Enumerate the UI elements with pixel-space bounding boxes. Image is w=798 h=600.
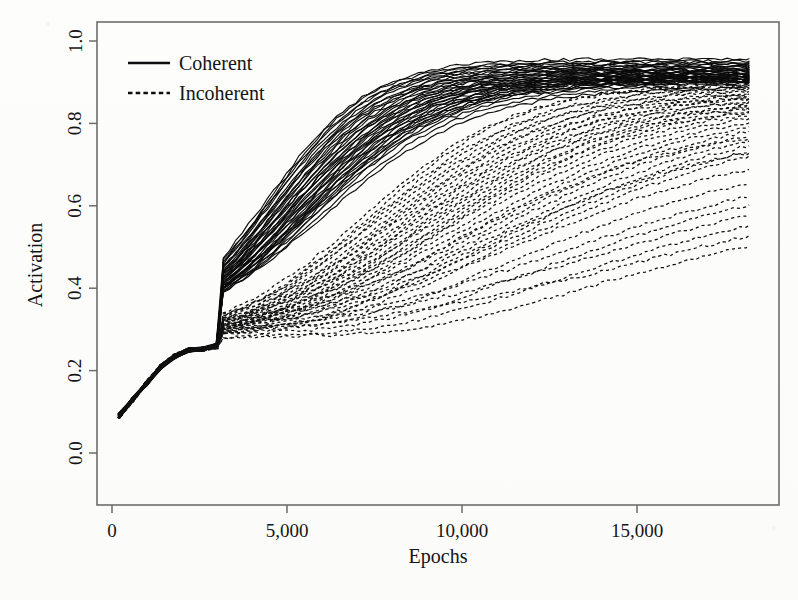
- trace-coherent: [119, 81, 749, 413]
- trace-incoherent: [119, 111, 749, 417]
- y-tick-label: 0.0: [65, 441, 86, 465]
- x-axis-title: Epochs: [409, 545, 468, 568]
- trace-incoherent: [118, 245, 749, 415]
- trace-incoherent: [118, 131, 749, 417]
- trace-incoherent: [120, 98, 749, 418]
- x-tick-label: 5,000: [266, 520, 309, 541]
- trace-coherent: [119, 87, 749, 417]
- trace-coherent: [119, 81, 749, 417]
- trace-incoherent: [119, 225, 749, 415]
- trace-incoherent: [119, 151, 749, 417]
- trace-incoherent: [118, 107, 749, 417]
- x-axis-ticks: 05,00010,00015,000: [107, 505, 663, 541]
- trace-coherent: [119, 79, 749, 414]
- figure-page: 05,00010,00015,000 0.00.20.40.60.81.0 Co…: [0, 0, 798, 600]
- chart-legend: Coherent Incoherent: [128, 52, 265, 104]
- y-tick-label: 0.8: [65, 112, 86, 136]
- y-tick-label: 0.6: [65, 194, 86, 218]
- trace-coherent: [118, 84, 749, 417]
- trace-incoherent: [120, 89, 749, 418]
- trace-incoherent: [118, 83, 749, 418]
- x-tick-label: 0: [107, 520, 117, 541]
- trace-coherent: [119, 76, 749, 414]
- trace-coherent: [119, 77, 749, 414]
- x-tick-label: 15,000: [611, 520, 663, 541]
- trace-incoherent: [118, 99, 749, 416]
- trace-incoherent: [120, 156, 749, 417]
- trace-incoherent: [118, 91, 749, 416]
- series-layer: [118, 58, 749, 418]
- trace-incoherent: [120, 138, 749, 416]
- trace-incoherent: [118, 93, 749, 418]
- y-axis-ticks: 0.00.20.40.60.81.0: [65, 29, 98, 465]
- trace-coherent: [120, 76, 750, 417]
- trace-incoherent: [120, 183, 749, 416]
- activation-epochs-line-chart: 05,00010,00015,000 0.00.20.40.60.81.0 Co…: [0, 0, 798, 600]
- trace-coherent: [120, 82, 749, 417]
- trace-coherent: [119, 73, 750, 414]
- trace-incoherent: [119, 205, 749, 416]
- trace-incoherent: [120, 115, 749, 417]
- trace-incoherent: [119, 112, 749, 416]
- trace-coherent: [120, 75, 749, 414]
- trace-coherent: [119, 78, 749, 418]
- legend-label-incoherent: Incoherent: [179, 82, 265, 104]
- x-tick-label: 10,000: [436, 520, 488, 541]
- y-tick-label: 0.4: [65, 276, 86, 300]
- trace-coherent: [118, 78, 749, 418]
- trace-coherent: [119, 69, 749, 418]
- y-axis-title: Activation: [24, 223, 46, 307]
- trace-coherent: [119, 76, 749, 418]
- trace-coherent: [118, 70, 749, 414]
- trace-coherent: [118, 78, 749, 414]
- trace-incoherent: [119, 94, 749, 417]
- y-tick-label: 0.2: [65, 359, 86, 383]
- y-tick-label: 1.0: [65, 29, 86, 53]
- legend-label-coherent: Coherent: [179, 52, 253, 74]
- trace-incoherent: [118, 214, 749, 416]
- trace-incoherent: [118, 109, 749, 416]
